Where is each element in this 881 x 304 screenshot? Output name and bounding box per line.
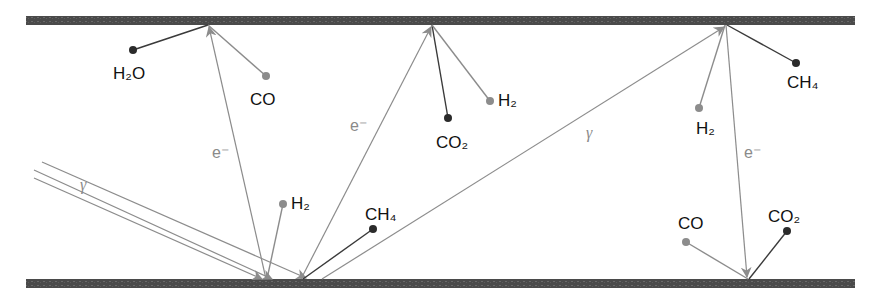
h2-emission-line-right [699,25,725,108]
bottom-plate [26,279,855,288]
ch4-molecule-dot-right [792,59,800,67]
ch4-label-bottom: CH₄ [365,205,397,224]
co2-molecule-dot-top [444,114,452,122]
electron-label-3: e⁻ [744,144,761,161]
co2-label-top: CO₂ [436,133,468,152]
h2-molecule-dot-right [695,104,703,112]
co-molecule-dot-top [262,72,270,80]
electron-label-1: e⁻ [212,144,229,161]
h2-molecule-dot-bottom [279,200,287,208]
co-molecule-dot-bottom [682,238,690,246]
co-emission-line-bottom [686,242,748,279]
h2o-label: H₂O [113,64,145,83]
h2-molecule-dot-top [486,97,494,105]
co-label-top: CO [250,90,276,109]
electron-path-2 [301,27,431,279]
co-label-bottom: CO [678,214,704,233]
h2-label-right: H₂ [696,119,715,138]
h2o-molecule-dot [129,46,137,54]
electron-label-2: e⁻ [350,117,367,134]
h2o-emission-line [133,25,208,50]
top-plate [26,16,855,25]
co2-label-bottom: CO₂ [768,207,800,226]
reflected-gamma-path [322,27,724,279]
co2-emission-line-bottom [749,231,787,279]
h2-label-bottom: H₂ [291,194,310,213]
h2-emission-line-top [432,25,490,101]
gamma-label-right: γ [586,124,593,142]
ch4-molecule-dot-bottom [369,225,377,233]
co2-molecule-dot-bottom [783,227,791,235]
h2-label-top: H₂ [498,91,517,110]
co2-emission-line-top [432,25,448,118]
ch4-emission-line-right [727,25,796,63]
co-emission-line-top [208,25,266,76]
ch4-label-right: CH₄ [787,73,819,92]
incoming-gamma-beams [34,162,306,279]
gamma-label-left: γ [80,176,87,194]
h2-emission-line-bottom [267,204,283,279]
radiolysis-diagram: γ e⁻ H₂O CO e⁻ CO₂ H₂ γ H₂ CH₄ H₂ CH₄ e⁻… [0,0,881,304]
